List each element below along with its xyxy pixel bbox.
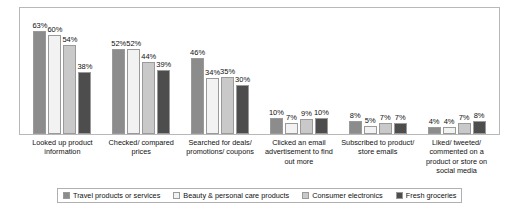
bar-slot: 52%: [127, 7, 140, 134]
bar: [206, 78, 219, 134]
bar-group: 46%34%35%30%: [181, 7, 260, 134]
legend-swatch-icon: [173, 192, 180, 199]
bar-value-label: 7%: [395, 114, 406, 122]
bar: [349, 121, 362, 134]
bar-value-label: 46%: [190, 49, 205, 57]
legend-swatch-icon: [302, 192, 309, 199]
bar-value-label: 7%: [286, 114, 297, 122]
chart-legend: Travel products or servicesBeauty & pers…: [57, 188, 462, 203]
bar: [191, 58, 204, 134]
legend-label: Beauty & personal care products: [183, 192, 289, 200]
legend-item[interactable]: Travel products or services: [63, 192, 160, 200]
legend-item[interactable]: Beauty & personal care products: [173, 192, 289, 200]
bar-slot: 7%: [458, 7, 471, 134]
category-label: Searched for deals/ promotions/ coupons: [181, 138, 260, 175]
bar-slot: 4%: [428, 7, 441, 134]
bar-slot: 7%: [394, 7, 407, 134]
bar-value-label: 35%: [220, 68, 235, 76]
bar: [142, 62, 155, 134]
bar-slot: 52%: [112, 7, 125, 134]
bar: [458, 123, 471, 135]
bar-group: 63%60%54%38%: [23, 7, 102, 134]
bar-slot: 60%: [48, 7, 61, 134]
bar-value-label: 8%: [474, 112, 485, 120]
bar: [127, 49, 140, 134]
bar-slot: 46%: [191, 7, 204, 134]
bar-slot: 7%: [285, 7, 298, 134]
bar: [63, 45, 76, 134]
bar-value-label: 38%: [77, 63, 92, 71]
category-label: Clicked an email advertisement to find o…: [259, 138, 338, 175]
category-label: Liked/ tweeted/ commented on a product o…: [417, 138, 496, 175]
legend-label: Consumer electronics: [312, 192, 383, 200]
bar: [33, 31, 46, 135]
bar-value-label: 4%: [429, 118, 440, 126]
legend-label: Fresh groceries: [406, 192, 457, 200]
bar-value-label: 4%: [444, 118, 455, 126]
category-label: Looked up product information: [23, 138, 102, 175]
bar: [78, 72, 91, 134]
bar: [112, 49, 125, 134]
bar-value-label: 52%: [126, 40, 141, 48]
bar-value-label: 63%: [32, 22, 47, 30]
bar-value-label: 34%: [205, 69, 220, 77]
bar: [364, 126, 377, 134]
bar-group: 8%5%7%7%: [338, 7, 417, 134]
legend-item[interactable]: Consumer electronics: [302, 192, 383, 200]
bar-slot: 5%: [364, 7, 377, 134]
bar-groups-container: 63%60%54%38%52%52%44%39%46%34%35%30%10%7…: [19, 7, 500, 135]
bar-value-label: 30%: [235, 76, 250, 84]
bar-slot: 7%: [379, 7, 392, 134]
bar-slot: 35%: [221, 7, 234, 134]
bar-slot: 54%: [63, 7, 76, 134]
bar-slot: 10%: [270, 7, 283, 134]
category-label: Subscribed to product/ store emails: [338, 138, 417, 175]
legend-swatch-icon: [63, 192, 70, 199]
legend-item[interactable]: Fresh groceries: [396, 192, 457, 200]
bar-slot: 63%: [33, 7, 46, 134]
bar: [300, 119, 313, 134]
bar: [443, 127, 456, 134]
bar-value-label: 54%: [62, 36, 77, 44]
bar: [315, 118, 328, 134]
bar-slot: 10%: [315, 7, 328, 134]
legend-swatch-icon: [396, 192, 403, 199]
bar: [157, 70, 170, 134]
bar-slot: 34%: [206, 7, 219, 134]
bar-slot: 39%: [157, 7, 170, 134]
bar-slot: 38%: [78, 7, 91, 134]
bar-value-label: 60%: [47, 26, 62, 34]
bar: [48, 35, 61, 134]
bar: [221, 77, 234, 135]
bar-value-label: 44%: [141, 53, 156, 61]
bar-chart-figure: 63%60%54%38%52%52%44%39%46%34%35%30%10%7…: [0, 0, 511, 211]
bar: [428, 127, 441, 134]
category-axis-labels: Looked up product informationChecked/ co…: [19, 138, 500, 175]
bar-value-label: 7%: [380, 114, 391, 122]
bar: [270, 118, 283, 134]
bar-value-label: 39%: [156, 61, 171, 69]
bar: [473, 121, 486, 134]
bar-value-label: 8%: [350, 112, 361, 120]
legend-label: Travel products or services: [73, 192, 160, 200]
bar-value-label: 10%: [269, 109, 284, 117]
bar-slot: 8%: [473, 7, 486, 134]
bar-group: 52%52%44%39%: [102, 7, 181, 134]
bar: [379, 123, 392, 135]
bar: [394, 123, 407, 135]
bar-group: 4%4%7%8%: [417, 7, 496, 134]
bar-group: 10%7%9%10%: [259, 7, 338, 134]
bar: [285, 123, 298, 135]
bar-slot: 44%: [142, 7, 155, 134]
bar-slot: 30%: [236, 7, 249, 134]
bar-value-label: 52%: [111, 40, 126, 48]
bar-slot: 8%: [349, 7, 362, 134]
bar: [236, 85, 249, 134]
bar-value-label: 10%: [314, 109, 329, 117]
category-label: Checked/ compared prices: [102, 138, 181, 175]
bar-value-label: 9%: [301, 110, 312, 118]
bar-value-label: 5%: [365, 117, 376, 125]
bar-slot: 4%: [443, 7, 456, 134]
bar-slot: 9%: [300, 7, 313, 134]
bar-value-label: 7%: [459, 114, 470, 122]
